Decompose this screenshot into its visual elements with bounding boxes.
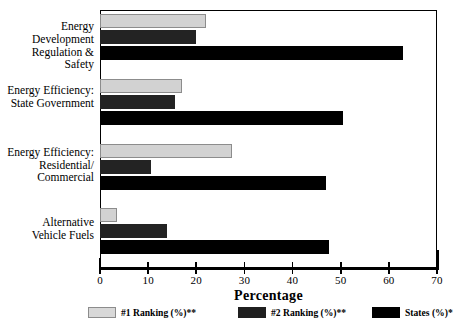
x-axis-title: Percentage: [100, 288, 437, 304]
x-tick-label: 10: [142, 274, 153, 286]
bar-group: AlternativeVehicle Fuels: [0, 208, 456, 259]
bar-series-2: [100, 95, 175, 109]
bar-series-3: [100, 46, 403, 60]
x-tick-mark: [340, 262, 342, 274]
bar-group: Energy Efficiency:State Government: [0, 79, 456, 130]
bar-series-1: [100, 79, 182, 93]
legend-item[interactable]: #1 Ranking (%)**: [88, 307, 196, 318]
category-label-line: Alternative: [0, 216, 94, 229]
legend-swatch-icon: [88, 307, 116, 318]
legend-swatch-icon: [372, 307, 400, 318]
legend-swatch-icon: [238, 307, 266, 318]
x-tick-mark: [244, 262, 246, 274]
bar-series-3: [100, 111, 343, 125]
category-label-line: Energy Development: [0, 20, 94, 45]
category-label-line: Energy Efficiency:: [0, 84, 94, 97]
bar-series-3: [100, 240, 329, 254]
x-tick-label: 50: [335, 274, 346, 286]
x-tick-label: 70: [431, 274, 442, 286]
category-label: Energy Efficiency:Residential/Commercial: [0, 146, 94, 184]
category-label-line: Vehicle Fuels: [0, 229, 94, 242]
category-label-line: Residential/: [0, 159, 94, 172]
category-label-line: State Government: [0, 97, 94, 110]
category-label-line: Energy Efficiency:: [0, 146, 94, 159]
legend-label: #1 Ranking (%)**: [121, 307, 196, 318]
chart-legend: #1 Ranking (%)**#2 Ranking (%)**States (…: [0, 307, 456, 321]
x-tick-mark: [147, 262, 149, 274]
x-tick-mark: [388, 262, 390, 274]
x-tick-mark: [436, 262, 438, 274]
legend-label: #2 Ranking (%)**: [271, 307, 346, 318]
bar-chart: Energy DevelopmentRegulation & SafetyEne…: [0, 0, 456, 336]
bar-group: Energy Efficiency:Residential/Commercial: [0, 144, 456, 195]
category-label: Energy Efficiency:State Government: [0, 84, 94, 109]
bar-series-1: [100, 208, 117, 222]
bar-series-2: [100, 224, 167, 238]
legend-item[interactable]: #2 Ranking (%)**: [238, 307, 346, 318]
category-label-line: Regulation & Safety: [0, 46, 94, 71]
bar-group: Energy DevelopmentRegulation & Safety: [0, 14, 456, 65]
bar-series-1: [100, 14, 206, 28]
legend-label: States (%)*: [405, 307, 453, 318]
bar-series-2: [100, 30, 196, 44]
x-tick-label: 20: [191, 274, 202, 286]
x-tick-label: 30: [239, 274, 250, 286]
x-tick-mark: [292, 262, 294, 274]
x-tick-label: 60: [383, 274, 394, 286]
category-label: Energy DevelopmentRegulation & Safety: [0, 20, 94, 70]
bar-series-1: [100, 144, 232, 158]
bar-series-3: [100, 176, 326, 190]
bar-series-2: [100, 160, 151, 174]
x-tick-mark: [99, 262, 101, 274]
category-label-line: Commercial: [0, 171, 94, 184]
category-label: AlternativeVehicle Fuels: [0, 216, 94, 241]
legend-item[interactable]: States (%)*: [372, 307, 453, 318]
x-tick-mark: [195, 262, 197, 274]
x-tick-label: 0: [97, 274, 103, 286]
x-tick-label: 40: [287, 274, 298, 286]
